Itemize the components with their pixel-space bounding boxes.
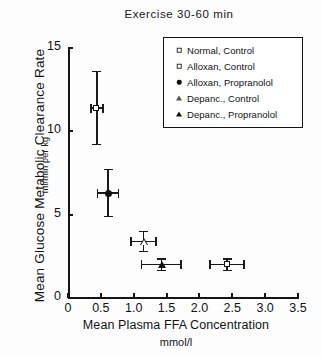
legend-item[interactable]: Depanc., Propranolol	[164, 106, 302, 122]
error-bar-cap	[92, 144, 101, 146]
x-tick-label: 2.5	[215, 301, 249, 315]
legend-item-label: Depanc., Control	[187, 93, 259, 104]
x-tick-mark	[166, 293, 168, 298]
x-tick-mark	[100, 293, 102, 298]
legend-item-label: Alloxan, Control	[187, 61, 255, 72]
legend-marker-icon	[171, 92, 187, 104]
x-tick-mark	[264, 293, 266, 298]
chart-title: Exercise 30-60 min	[0, 8, 322, 20]
error-bar-cap	[223, 258, 232, 260]
legend-marker-icon	[171, 108, 187, 120]
x-tick-label: 2.0	[182, 301, 216, 315]
legend-marker-icon	[171, 60, 187, 72]
legend-item-label: Depanc., Propranolol	[187, 109, 277, 120]
data-point-marker	[105, 190, 112, 197]
data-point-marker	[93, 105, 99, 111]
x-tick-label: 1.5	[150, 301, 184, 315]
error-bar-cap	[243, 260, 245, 269]
legend-item-label: Normal, Control	[187, 45, 254, 56]
error-bar-cap	[180, 260, 182, 269]
legend-item-label: Alloxan, Propranolol	[187, 77, 273, 88]
x-axis-title: Mean Plasma FFA Concentration	[30, 318, 322, 332]
x-tick-mark	[198, 293, 200, 298]
error-bar-cap	[223, 270, 232, 272]
error-bar-cap	[157, 258, 166, 260]
error-bar-cap	[104, 216, 113, 218]
data-point-marker	[158, 261, 166, 268]
error-bar-cap	[130, 237, 132, 246]
legend-item[interactable]: Depanc., Control	[164, 90, 302, 106]
x-tick-label: 0.5	[84, 301, 118, 315]
error-bar-cap	[155, 237, 157, 246]
y-tick-mark	[68, 47, 73, 49]
error-bar-cap	[118, 189, 120, 198]
data-point-marker	[224, 261, 230, 267]
error-bar-cap	[139, 251, 148, 253]
error-bar-cap	[104, 169, 113, 171]
error-bar-cap	[157, 270, 166, 272]
y-tick-mark	[68, 214, 73, 216]
x-tick-mark	[297, 293, 299, 298]
error-bar-cap	[90, 104, 92, 113]
x-tick-mark	[133, 293, 135, 298]
x-tick-label: 1.0	[117, 301, 151, 315]
y-tick-label: 10	[31, 122, 61, 136]
legend-marker-icon	[171, 44, 187, 56]
y-axis-line	[68, 48, 70, 299]
x-tick-label: 3.0	[248, 301, 282, 315]
legend: Normal, ControlAlloxan, ControlAlloxan, …	[163, 37, 303, 128]
y-tick-label: 5	[31, 206, 61, 220]
legend-item[interactable]: Alloxan, Propranolol	[164, 74, 302, 90]
error-bar-cap	[209, 260, 211, 269]
data-point-marker	[140, 238, 148, 245]
figure-scatter-plot: Exercise 30-60 min Mean Glucose Metaboli…	[0, 0, 322, 357]
x-tick-label: 3.5	[281, 301, 315, 315]
x-tick-label: 0	[51, 301, 85, 315]
y-tick-label: 15	[31, 39, 61, 53]
legend-item[interactable]: Normal, Control	[164, 42, 302, 58]
x-axis-units: mmol/l	[30, 336, 322, 348]
x-tick-mark	[67, 293, 69, 298]
y-tick-mark	[68, 130, 73, 132]
error-bar-cap	[97, 189, 99, 198]
error-bar-cap	[102, 104, 104, 113]
x-tick-mark	[231, 293, 233, 298]
legend-marker-icon	[171, 76, 187, 88]
error-bar-cap	[92, 71, 101, 73]
error-bar-cap	[139, 231, 148, 233]
error-bar-cap	[141, 260, 143, 269]
legend-item[interactable]: Alloxan, Control	[164, 58, 302, 74]
